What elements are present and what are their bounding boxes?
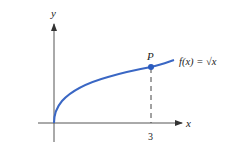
x-axis-label: x — [185, 117, 191, 129]
function-label: f(x) = √x — [179, 56, 217, 68]
sqrt-function-diagram: x y P 3 f(x) = √x — [0, 0, 240, 155]
point-p-label: P — [146, 50, 154, 62]
x-tick-label-3: 3 — [148, 131, 153, 142]
sqrt-curve — [54, 60, 174, 123]
y-axis-label: y — [50, 7, 56, 19]
point-p-marker — [148, 64, 154, 70]
